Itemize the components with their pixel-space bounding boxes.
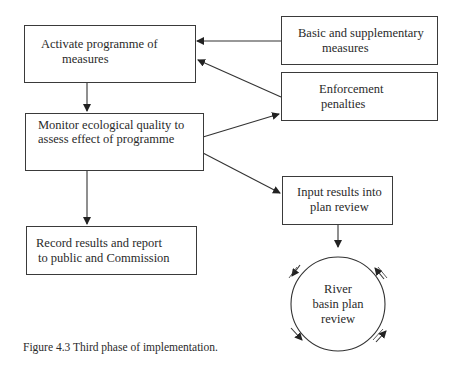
node-river-line3: review xyxy=(293,312,383,327)
node-record-line1: Record results and report xyxy=(36,236,162,251)
node-input-line1: Input results into xyxy=(297,185,382,200)
node-activate-line1: Activate programme of xyxy=(41,37,158,52)
node-record-results: Record results and report to public and … xyxy=(26,226,197,275)
node-monitor-quality: Monitor ecological quality to assess eff… xyxy=(25,113,204,171)
node-enforcement-penalties: Enforcement penalties xyxy=(281,72,438,121)
node-river-line1: River xyxy=(293,282,383,297)
node-input-results: Input results into plan review xyxy=(282,176,393,225)
arrow-monitor-to-enforcement xyxy=(203,114,279,137)
node-monitor-line2: assess effect of programme xyxy=(38,132,174,147)
node-monitor-line1: Monitor ecological quality to xyxy=(38,118,184,133)
node-basic-supplementary: Basic and supplementary measures xyxy=(281,16,438,65)
arrow-enforcement-to-activate xyxy=(198,60,281,97)
node-basic-line2: measures xyxy=(322,41,369,56)
node-enforcement-line2: penalties xyxy=(321,97,365,112)
node-basic-line1: Basic and supplementary xyxy=(298,26,424,41)
node-river-basin-plan-review: River basin plan review xyxy=(293,282,383,327)
node-record-line2: to public and Commission xyxy=(38,251,170,266)
figure-caption: Figure 4.3 Third phase of implementation… xyxy=(23,341,218,353)
node-input-line2: plan review xyxy=(310,200,369,215)
node-activate-programme: Activate programme of measures xyxy=(24,25,196,83)
node-activate-line2: measures xyxy=(62,52,109,67)
node-river-line2: basin plan xyxy=(293,297,383,312)
node-enforcement-line1: Enforcement xyxy=(319,82,384,97)
arrow-monitor-to-input xyxy=(203,153,280,193)
